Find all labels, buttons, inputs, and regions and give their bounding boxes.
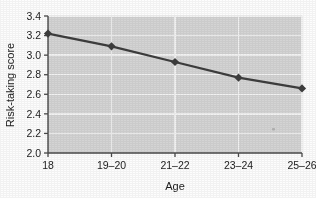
scan-artifact-speck bbox=[272, 128, 275, 130]
y-tick-label: 3.0 bbox=[26, 49, 41, 61]
y-tick-label: 2.6 bbox=[26, 88, 41, 100]
y-tick-label: 2.8 bbox=[26, 68, 41, 80]
chart-figure: 2.02.22.42.62.83.03.23.4 1819–2021–2223–… bbox=[0, 0, 316, 198]
line-chart: 2.02.22.42.62.83.03.23.4 1819–2021–2223–… bbox=[0, 0, 316, 198]
y-tick-label: 2.0 bbox=[26, 147, 41, 159]
y-tick-label: 3.2 bbox=[26, 29, 41, 41]
x-tick-label: 19–20 bbox=[97, 159, 126, 171]
y-tick-label: 2.4 bbox=[26, 108, 41, 120]
y-axis-title: Risk-taking score bbox=[4, 43, 16, 127]
x-tick-label: 25–26 bbox=[287, 159, 316, 171]
y-tick-label: 3.4 bbox=[26, 10, 41, 22]
x-tick-label: 18 bbox=[42, 159, 54, 171]
x-tick-label: 21–22 bbox=[160, 159, 189, 171]
y-tick-label: 2.2 bbox=[26, 127, 41, 139]
x-tick-label: 23–24 bbox=[224, 159, 253, 171]
x-axis-title: Age bbox=[165, 180, 185, 192]
